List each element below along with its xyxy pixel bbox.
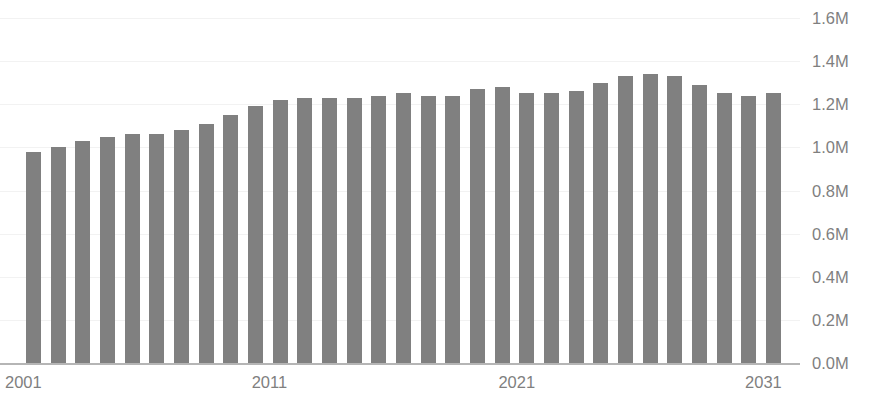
y-axis-tick-label: 1.2M — [812, 96, 870, 112]
bar[interactable] — [199, 124, 214, 363]
bar[interactable] — [692, 85, 707, 363]
x-axis-tick-label: 2031 — [745, 372, 782, 392]
x-axis-tick-label: 2011 — [252, 372, 287, 392]
plot-area — [0, 18, 800, 363]
bar[interactable] — [223, 115, 238, 363]
x-axis-tick-label: 2021 — [498, 372, 535, 392]
bar[interactable] — [248, 106, 263, 363]
bar[interactable] — [495, 87, 510, 363]
bar[interactable] — [741, 96, 756, 363]
y-axis-tick-label: 0.6M — [812, 226, 870, 242]
bar[interactable] — [396, 93, 411, 363]
bar[interactable] — [26, 152, 41, 363]
bar[interactable] — [347, 98, 362, 363]
y-axis: 0.0M0.2M0.4M0.6M0.8M1.0M1.2M1.4M1.6M — [812, 0, 876, 413]
bar[interactable] — [445, 96, 460, 363]
bar[interactable] — [149, 134, 164, 363]
bar[interactable] — [519, 93, 534, 363]
bar[interactable] — [75, 141, 90, 363]
bar[interactable] — [667, 76, 682, 363]
y-axis-tick-label: 0.8M — [812, 183, 870, 199]
x-axis-tick-label: 2001 — [5, 372, 42, 392]
bar[interactable] — [470, 89, 485, 363]
bar-chart: 0.0M0.2M0.4M0.6M0.8M1.0M1.2M1.4M1.6M 200… — [0, 0, 876, 413]
bar[interactable] — [322, 98, 337, 363]
y-axis-tick-label: 1.6M — [812, 10, 870, 26]
bar[interactable] — [618, 76, 633, 363]
bar[interactable] — [643, 74, 658, 363]
bar[interactable] — [593, 83, 608, 363]
x-axis: 2001201120212031 — [0, 372, 876, 402]
bar[interactable] — [766, 93, 781, 363]
bars-series — [0, 18, 800, 363]
bar[interactable] — [544, 93, 559, 363]
y-axis-tick-label: 0.4M — [812, 269, 870, 285]
y-axis-tick-label: 0.0M — [812, 355, 870, 371]
bar[interactable] — [297, 98, 312, 363]
axis-baseline — [0, 363, 800, 365]
chart-title — [0, 0, 810, 3]
y-axis-tick-label: 0.2M — [812, 312, 870, 328]
y-axis-tick-label: 1.4M — [812, 53, 870, 69]
bar[interactable] — [174, 130, 189, 363]
bar[interactable] — [717, 93, 732, 363]
bar[interactable] — [125, 134, 140, 363]
y-axis-tick-label: 1.0M — [812, 139, 870, 155]
bar[interactable] — [569, 91, 584, 363]
bar[interactable] — [421, 96, 436, 363]
bar[interactable] — [51, 147, 66, 363]
bar[interactable] — [273, 100, 288, 363]
bar[interactable] — [100, 137, 115, 363]
bar[interactable] — [371, 96, 386, 363]
